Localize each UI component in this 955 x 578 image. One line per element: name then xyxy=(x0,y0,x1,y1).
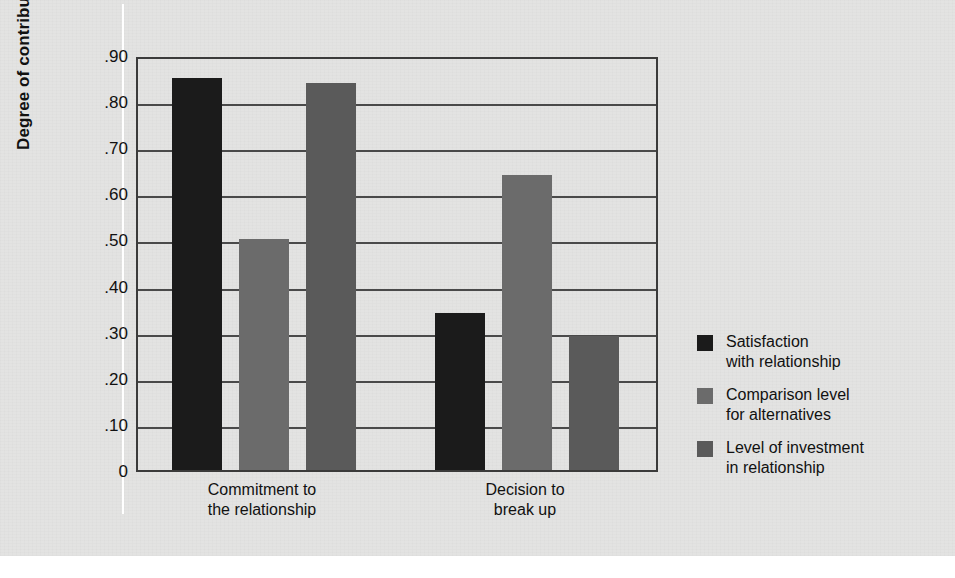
legend-swatch-icon xyxy=(697,441,713,457)
legend-label-line: in relationship xyxy=(726,458,864,478)
x-category-label-line: the relationship xyxy=(162,500,362,520)
x-category-label-line: Commitment to xyxy=(162,480,362,500)
y-tick-label: .30 xyxy=(62,325,128,342)
x-category-label-line: Decision to xyxy=(425,480,625,500)
legend-item[interactable]: Level of investmentin relationship xyxy=(697,438,947,478)
legend-item[interactable]: Satisfactionwith relationship xyxy=(697,332,947,372)
legend-label: Satisfactionwith relationship xyxy=(726,332,841,372)
legend-label: Comparison levelfor alternatives xyxy=(726,385,850,425)
y-axis-title: Degree of contribution xyxy=(14,0,34,150)
y-tick-label: .40 xyxy=(62,279,128,296)
legend-label-line: Satisfaction xyxy=(726,332,841,352)
figure-plate: Degree of contribution .90.80.70.60.50.4… xyxy=(0,0,955,556)
y-axis-tick-labels: .90.80.70.60.50.40.30.20.100 xyxy=(62,0,128,556)
legend-label-line: Comparison level xyxy=(726,385,850,405)
y-tick-label: .70 xyxy=(62,140,128,157)
x-category-label-line: break up xyxy=(425,500,625,520)
y-tick-label: .10 xyxy=(62,417,128,434)
bar xyxy=(569,336,619,470)
x-category-label: Commitment tothe relationship xyxy=(162,480,362,520)
legend-label-line: Level of investment xyxy=(726,438,864,458)
y-tick-label: 0 xyxy=(62,463,128,480)
bars-layer xyxy=(138,59,656,470)
bar xyxy=(435,313,485,470)
plot-area xyxy=(136,57,658,472)
bar xyxy=(239,239,289,470)
y-tick-label: .80 xyxy=(62,94,128,111)
legend-item[interactable]: Comparison levelfor alternatives xyxy=(697,385,947,425)
y-tick-label: .90 xyxy=(62,48,128,65)
legend-label: Level of investmentin relationship xyxy=(726,438,864,478)
x-category-label: Decision tobreak up xyxy=(425,480,625,520)
y-tick-label: .20 xyxy=(62,371,128,388)
legend-label-line: with relationship xyxy=(726,352,841,372)
legend-label-line: for alternatives xyxy=(726,405,850,425)
x-axis-category-labels: Commitment tothe relationshipDecision to… xyxy=(136,480,658,540)
chart-legend: Satisfactionwith relationshipComparison … xyxy=(697,332,947,491)
bar xyxy=(502,175,552,470)
y-tick-label: .50 xyxy=(62,232,128,249)
bar xyxy=(306,83,356,470)
legend-swatch-icon xyxy=(697,335,713,351)
legend-swatch-icon xyxy=(697,388,713,404)
y-tick-label: .60 xyxy=(62,186,128,203)
bar xyxy=(172,78,222,470)
page-margin-bottom xyxy=(0,556,955,578)
